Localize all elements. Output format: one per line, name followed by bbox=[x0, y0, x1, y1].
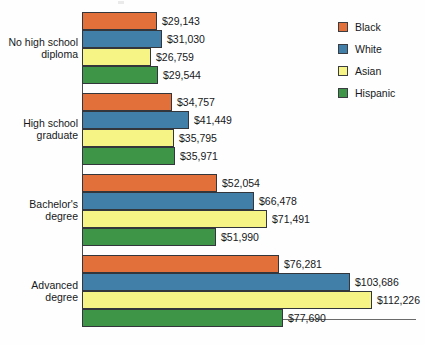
bar-row: $34,757 bbox=[82, 93, 372, 111]
legend-label: White bbox=[355, 43, 382, 55]
bar-black-1 bbox=[82, 12, 157, 30]
bar-row: $35,971 bbox=[82, 147, 372, 165]
bar-row: $112,226 bbox=[82, 291, 372, 309]
bar-row: $66,478 bbox=[82, 192, 372, 210]
bar-hispanic-2 bbox=[82, 147, 175, 165]
legend-label: Hispanic bbox=[355, 87, 395, 99]
bar-value-label: $26,759 bbox=[156, 49, 194, 65]
bar-value-label: $31,030 bbox=[167, 31, 205, 47]
category-label-line: High school bbox=[0, 117, 78, 130]
bar-white-4 bbox=[82, 273, 350, 291]
bar-hispanic-1 bbox=[82, 66, 158, 84]
chart-legend: BlackWhiteAsianHispanic bbox=[338, 16, 395, 104]
bar-value-label: $41,449 bbox=[194, 112, 232, 128]
legend-label: Black bbox=[355, 21, 381, 33]
bar-row: $51,990 bbox=[82, 228, 372, 246]
bar-asian-1 bbox=[82, 48, 151, 66]
bar-row: $29,143 bbox=[82, 12, 372, 30]
category-label-4: Advanceddegree bbox=[0, 279, 78, 304]
bar-asian-3 bbox=[82, 210, 267, 228]
bar-value-label: $52,054 bbox=[222, 175, 260, 191]
legend-item-hispanic[interactable]: Hispanic bbox=[338, 82, 395, 104]
bar-value-label: $34,757 bbox=[177, 94, 215, 110]
bar-row: $76,281 bbox=[82, 255, 372, 273]
bar-value-label: $71,491 bbox=[272, 211, 310, 227]
bar-value-label: $112,226 bbox=[377, 292, 420, 308]
legend-swatch-icon bbox=[338, 66, 348, 76]
bar-row: $31,030 bbox=[82, 30, 372, 48]
bar-row: $52,054 bbox=[82, 174, 372, 192]
category-label-2: High schoolgraduate bbox=[0, 117, 78, 142]
bar-black-4 bbox=[82, 255, 279, 273]
category-label-3: Bachelor'sdegree bbox=[0, 198, 78, 223]
bar-value-label: $51,990 bbox=[221, 229, 259, 245]
scan-artifact bbox=[118, 1, 124, 4]
category-label-line: Bachelor's bbox=[0, 198, 78, 211]
bar-row: $35,795 bbox=[82, 129, 372, 147]
bar-row: $77,690 bbox=[82, 309, 372, 327]
category-label-line: Advanced bbox=[0, 279, 78, 292]
bar-value-label: $29,544 bbox=[163, 67, 201, 83]
bar-hispanic-4 bbox=[82, 309, 283, 327]
legend-item-white[interactable]: White bbox=[338, 38, 395, 60]
bar-white-3 bbox=[82, 192, 254, 210]
category-label-line: graduate bbox=[0, 129, 78, 142]
bar-value-label: $66,478 bbox=[259, 193, 297, 209]
bar-row: $26,759 bbox=[82, 48, 372, 66]
legend-label: Asian bbox=[355, 65, 381, 77]
category-label-line: degree bbox=[0, 291, 78, 304]
bar-hispanic-3 bbox=[82, 228, 216, 246]
bar-black-2 bbox=[82, 93, 172, 111]
bar-value-label: $77,690 bbox=[288, 310, 326, 326]
legend-item-black[interactable]: Black bbox=[338, 16, 395, 38]
bar-value-label: $35,795 bbox=[179, 130, 217, 146]
legend-item-asian[interactable]: Asian bbox=[338, 60, 395, 82]
bar-white-1 bbox=[82, 30, 162, 48]
bar-group: $76,281$103,686$112,226$77,690 bbox=[82, 255, 372, 327]
category-label-line: degree bbox=[0, 210, 78, 223]
legend-swatch-icon bbox=[338, 22, 348, 32]
bar-asian-2 bbox=[82, 129, 174, 147]
category-label-line: diploma bbox=[0, 48, 78, 61]
category-label-line: No high school bbox=[0, 36, 78, 49]
bar-row: $71,491 bbox=[82, 210, 372, 228]
bar-row: $29,544 bbox=[82, 66, 372, 84]
bar-black-3 bbox=[82, 174, 217, 192]
bar-group: $34,757$41,449$35,795$35,971 bbox=[82, 93, 372, 165]
plot-area: $29,143$31,030$26,759$29,544$34,757$41,4… bbox=[82, 12, 372, 322]
bar-value-label: $35,971 bbox=[180, 148, 218, 164]
bar-group: $52,054$66,478$71,491$51,990 bbox=[82, 174, 372, 246]
bar-row: $103,686 bbox=[82, 273, 372, 291]
bar-value-label: $29,143 bbox=[162, 13, 200, 29]
bar-value-label: $76,281 bbox=[284, 256, 322, 272]
bar-asian-4 bbox=[82, 291, 372, 309]
bar-value-label: $103,686 bbox=[355, 274, 399, 290]
bar-group: $29,143$31,030$26,759$29,544 bbox=[82, 12, 372, 84]
legend-swatch-icon bbox=[338, 44, 348, 54]
legend-swatch-icon bbox=[338, 88, 348, 98]
bar-white-2 bbox=[82, 111, 189, 129]
bar-row: $41,449 bbox=[82, 111, 372, 129]
bar-chart: $29,143$31,030$26,759$29,544$34,757$41,4… bbox=[0, 0, 425, 345]
category-label-1: No high schooldiploma bbox=[0, 36, 78, 61]
